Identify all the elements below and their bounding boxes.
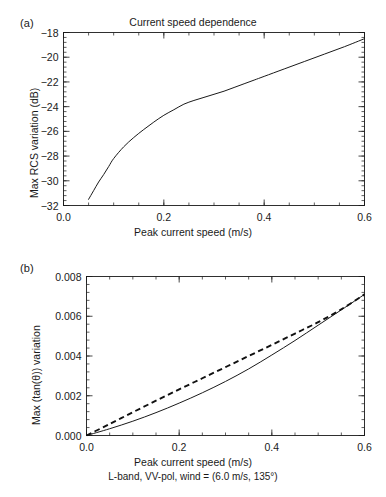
- y-tick-label: −20: [41, 51, 59, 63]
- panel-a-plot: 0.00.20.40.6−18−20−22−24−26−28−30−32: [0, 0, 386, 250]
- data-curve-2: [87, 294, 365, 435]
- y-tick-label: 0.006: [55, 310, 81, 322]
- y-tick-label: −24: [41, 101, 59, 113]
- y-tick-label: −28: [41, 150, 59, 162]
- figure-container: (a) Current speed dependence Max RCS var…: [0, 0, 386, 497]
- y-tick-label: −30: [41, 175, 59, 187]
- y-tick-label: −26: [41, 125, 59, 137]
- panel-b: (b) Max (tan(θ)) variation 0.00.20.40.60…: [0, 250, 386, 497]
- y-tick-label: 0.002: [55, 390, 81, 402]
- x-tick-label: 0.0: [79, 441, 94, 453]
- panel-b-y-axis-label: Max (tan(θ)) variation: [30, 325, 42, 425]
- panel-a-x-axis-label: Peak current speed (m/s): [0, 226, 386, 238]
- panel-a-y-axis-label: Max RCS variation (dB): [28, 88, 40, 198]
- y-tick-label: 0.000: [55, 430, 81, 442]
- x-tick-label: 0.2: [157, 211, 172, 223]
- x-tick-label: 0.0: [56, 211, 71, 223]
- x-tick-label: 0.4: [265, 441, 280, 453]
- panel-b-x-axis-label: Peak current speed (m/s): [0, 456, 386, 468]
- y-tick-label: −32: [41, 200, 59, 212]
- panel-b-label: (b): [20, 262, 34, 274]
- panel-a-title: Current speed dependence: [0, 16, 386, 28]
- x-tick-label: 0.6: [357, 441, 372, 453]
- y-tick-label: 0.008: [55, 271, 81, 283]
- data-curve-1: [89, 39, 365, 200]
- x-tick-label: 0.2: [172, 441, 187, 453]
- y-tick-label: 0.004: [55, 350, 81, 362]
- panel-b-caption: L-band, VV-pol, wind = (6.0 m/s, 135°): [0, 471, 386, 482]
- y-tick-label: −18: [41, 27, 59, 39]
- x-tick-label: 0.4: [257, 211, 272, 223]
- x-tick-label: 0.6: [357, 211, 372, 223]
- y-tick-label: −22: [41, 76, 59, 88]
- panel-a: (a) Current speed dependence Max RCS var…: [0, 0, 386, 250]
